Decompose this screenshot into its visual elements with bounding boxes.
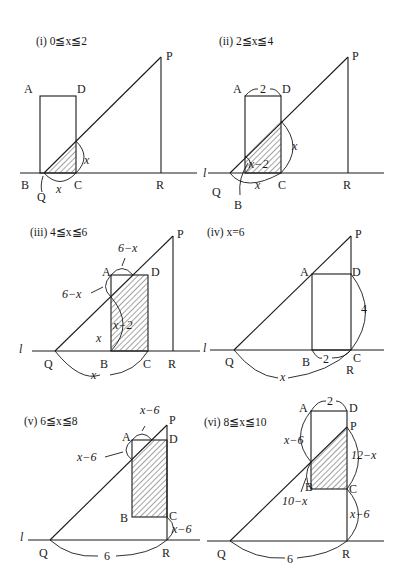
label-p: P (166, 49, 173, 63)
label-d: D (349, 401, 358, 415)
shaded-overlap (111, 275, 148, 351)
panel-iii: (iii) 4≦x≦6 6−x 6−x A D P x−2 x l Q B C … (19, 226, 200, 382)
label-p: P (177, 227, 184, 241)
panel-ii-title: (ii) 2≦x≦4 (219, 35, 273, 48)
brace-vertical (76, 141, 84, 173)
measure-lower-right: x−6 (349, 507, 369, 521)
label-d: D (352, 265, 361, 279)
label-d: D (151, 265, 160, 279)
measure-vertical: x (83, 153, 90, 167)
panel-iv-title: (iv) x=6 (207, 226, 245, 239)
shaded-overlap (132, 440, 167, 517)
label-l: l (203, 166, 207, 180)
label-b: B (100, 357, 108, 371)
measure-height: x (95, 331, 102, 345)
panel-iii-title: (iii) 4≦x≦6 (30, 226, 88, 239)
measure-vertical: x (291, 139, 298, 153)
label-q: Q (37, 190, 46, 204)
hypotenuse-qp (234, 236, 351, 350)
label-c: C (74, 178, 82, 192)
label-p: P (352, 49, 359, 63)
brace-top (111, 269, 133, 276)
label-b: B (234, 198, 242, 212)
panel-ii: (ii) 2≦x≦4 A 2 D P l Q B C R x x−2 x (203, 35, 384, 212)
measure-inner: x−2 (248, 157, 268, 171)
label-q: Q (39, 546, 48, 560)
measure-top: 2 (260, 82, 266, 96)
label-a: A (233, 82, 242, 96)
label-l: l (203, 341, 207, 355)
panel-vi: (vi) 8≦x≦10 A 2 D P x−6 12−x B C 10−x x−… (204, 394, 384, 566)
pointer-left (91, 287, 103, 293)
label-q: Q (217, 547, 226, 561)
shaded-overlap (311, 427, 347, 489)
label-b: B (302, 355, 310, 369)
measure-vertical: 4 (361, 302, 367, 316)
label-c: C (353, 351, 361, 365)
measure-top: x−6 (139, 403, 159, 417)
label-l: l (20, 530, 24, 544)
label-q: Q (225, 355, 234, 369)
measure-horizontal: 6 (287, 552, 293, 566)
label-a: A (299, 401, 308, 415)
hypotenuse-qp (230, 57, 348, 173)
label-r: R (168, 357, 176, 371)
label-d: D (282, 82, 291, 96)
label-r: R (346, 363, 354, 377)
measure-horizontal: x (55, 182, 62, 196)
measure-top: 6−x (118, 241, 138, 255)
measure-horizontal: x (90, 368, 97, 382)
panel-i: (i) 0≦x≦2 A D P B C R Q x x (20, 35, 197, 204)
hypotenuse-qp (44, 57, 161, 173)
label-r: R (156, 178, 164, 192)
measure-lower-left: 10−x (282, 494, 308, 508)
measure-bottom: 2 (323, 352, 329, 366)
label-c: C (278, 178, 286, 192)
measure-left: x−6 (76, 450, 96, 464)
label-b: B (21, 178, 29, 192)
panel-v-title: (v) 6≦x≦8 (24, 415, 78, 428)
measure-inner: x−2 (112, 318, 132, 332)
label-a: A (122, 430, 131, 444)
label-d: D (77, 82, 86, 96)
label-p: P (355, 227, 362, 241)
label-r: R (343, 178, 351, 192)
pointer-top (142, 426, 145, 431)
label-q: Q (44, 357, 53, 371)
rectangle-abcd-shaded (312, 274, 351, 350)
brace-top (132, 434, 152, 440)
diagram-canvas: (i) 0≦x≦2 A D P B C R Q x x (ii) 2≦x≦4 A… (0, 0, 403, 583)
label-a: A (300, 265, 309, 279)
brace-horizontal (234, 350, 351, 378)
measure-horizontal: x (254, 178, 261, 192)
panel-vi-title: (vi) 8≦x≦10 (204, 416, 267, 429)
label-a: A (102, 265, 111, 279)
measure-left: 6−x (62, 287, 82, 301)
label-q: Q (212, 185, 221, 199)
label-r: R (342, 547, 350, 561)
label-p: P (350, 419, 357, 433)
measure-right: x−6 (171, 522, 191, 536)
pointer-top (122, 258, 125, 266)
brace-horizontal (44, 173, 76, 182)
measure-left: x−6 (283, 433, 303, 447)
label-a: A (24, 82, 33, 96)
label-l: l (19, 342, 23, 356)
measure-horizontal: x (279, 370, 286, 384)
label-c: C (143, 357, 151, 371)
panel-iv: (iv) x=6 A D P 4 l Q B 2 C R x (203, 226, 384, 384)
label-c: C (169, 509, 177, 523)
panel-i-title: (i) 0≦x≦2 (36, 35, 87, 48)
label-p: P (169, 413, 176, 427)
label-r: R (162, 546, 170, 560)
label-c: C (349, 482, 357, 496)
label-b: B (120, 511, 128, 525)
measure-horizontal: 6 (104, 549, 110, 563)
panel-v: (v) 6≦x≦8 x−6 P A D x−6 B C x−6 l Q 6 R (20, 403, 200, 563)
brace-bottom (312, 350, 351, 358)
label-b: B (305, 480, 313, 494)
label-d: D (169, 432, 178, 446)
measure-top: 2 (327, 394, 333, 408)
pointer-left (105, 452, 123, 457)
measure-right: 12−x (351, 448, 377, 462)
